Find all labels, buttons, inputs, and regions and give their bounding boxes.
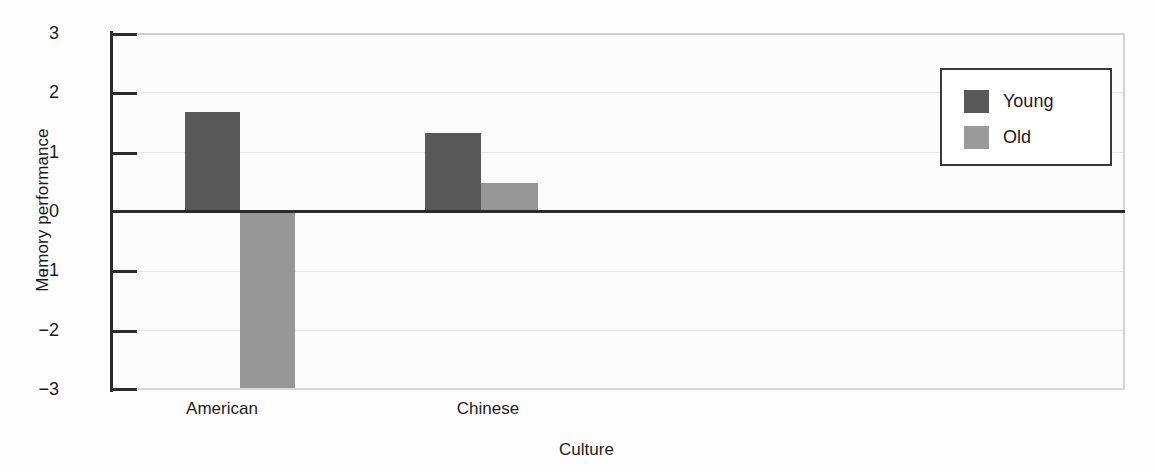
x-category-label-american: American [122, 399, 322, 419]
bar-chinese-young[interactable] [425, 133, 481, 211]
chart-legend[interactable]: Young Old [940, 68, 1112, 166]
legend-label-young: Young [1003, 92, 1053, 110]
legend-item-old[interactable]: Old [964, 119, 1110, 155]
bar-chart-figure: Memory performance 3 2 1 0 −1 −2 −3 Amer… [0, 0, 1155, 472]
y-tick-label-minus-1: −1 [0, 260, 59, 281]
y-tick-2 [113, 92, 137, 95]
x-axis-title: Culture [0, 440, 1155, 460]
legend-label-old: Old [1003, 128, 1031, 146]
y-tick-1 [113, 152, 137, 155]
x-category-label-chinese: Chinese [388, 399, 588, 419]
y-tick-label-0: 0 [0, 201, 59, 222]
legend-swatch-old-icon [964, 126, 989, 149]
y-tick-minus-3 [113, 388, 137, 391]
y-tick-label-2: 2 [0, 82, 59, 103]
zero-baseline [112, 210, 1125, 213]
y-tick-minus-1 [113, 270, 137, 273]
bar-american-old[interactable] [240, 211, 295, 388]
y-tick-minus-2 [113, 330, 137, 333]
y-tick-label-1: 1 [0, 142, 59, 163]
y-tick-label-minus-3: −3 [0, 379, 59, 400]
plot-border-bottom [112, 388, 1125, 390]
legend-item-young[interactable]: Young [964, 83, 1110, 119]
plot-border-top [112, 33, 1125, 35]
y-tick-3 [113, 33, 137, 36]
y-tick-label-3: 3 [0, 23, 59, 44]
bar-american-young[interactable] [185, 112, 240, 211]
bar-chinese-old[interactable] [481, 183, 538, 211]
legend-swatch-young-icon [964, 90, 989, 113]
y-tick-label-minus-2: −2 [0, 320, 59, 341]
x-axis-title-text: Culture [559, 440, 614, 459]
